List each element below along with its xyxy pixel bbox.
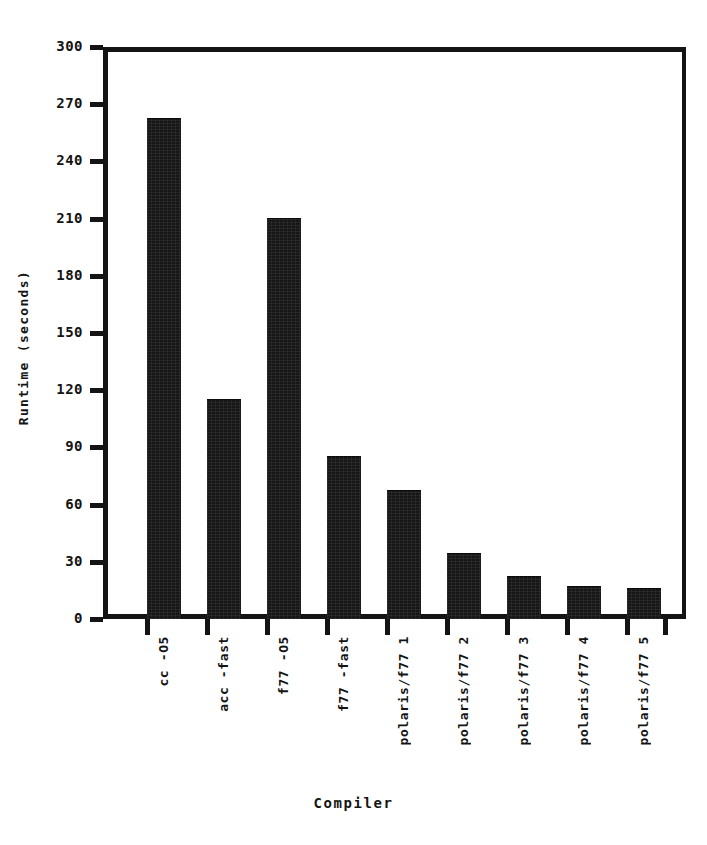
- bar-slot: [314, 47, 374, 619]
- y-tick-label: 180: [56, 267, 83, 283]
- y-tick-mark: [90, 617, 103, 622]
- bar-slot: [134, 47, 194, 619]
- bar: [507, 576, 541, 619]
- x-tick-label: polaris/f77 1: [396, 636, 416, 746]
- bar: [627, 588, 661, 620]
- x-tick-label: cc -O5: [156, 636, 176, 687]
- x-tick-mark: [205, 619, 210, 635]
- bar-slot: [494, 47, 554, 619]
- bar-slot: [614, 47, 674, 619]
- y-tick-mark: [90, 217, 103, 222]
- y-tick-label: 210: [56, 210, 83, 226]
- x-tick-label: acc -fast: [216, 636, 236, 712]
- y-tick-mark: [90, 159, 103, 164]
- bar-chart-figure: 0306090120150180210240270300 cc -O5acc -…: [0, 0, 707, 845]
- bar-slot: [434, 47, 494, 619]
- y-tick-mark: [90, 331, 103, 336]
- y-tick-label: 150: [56, 324, 83, 340]
- x-tick-mark: [445, 619, 450, 635]
- y-tick-mark: [90, 560, 103, 565]
- x-tick-label: polaris/f77 2: [456, 636, 476, 746]
- y-tick-label: 120: [56, 381, 83, 397]
- y-tick-mark: [90, 45, 103, 50]
- bar-slot: [554, 47, 614, 619]
- bar-slot: [194, 47, 254, 619]
- y-tick-label: 60: [65, 496, 83, 512]
- bar: [447, 553, 481, 619]
- bar: [207, 399, 241, 619]
- x-tick-mark: [145, 619, 150, 635]
- x-tick-label: f77 -O5: [276, 636, 296, 695]
- x-tick-mark: [625, 619, 630, 635]
- y-tick-mark: [90, 388, 103, 393]
- x-tick-label: polaris/f77 4: [576, 636, 596, 746]
- y-tick-label: 0: [74, 610, 83, 626]
- bar: [327, 456, 361, 619]
- x-tick-mark: [265, 619, 270, 635]
- x-tick-mark: [505, 619, 510, 635]
- bar-slot: [254, 47, 314, 619]
- x-tick-mark: [565, 619, 570, 635]
- bar-series: [103, 47, 686, 619]
- y-tick-label: 300: [56, 38, 83, 54]
- x-axis-title: Compiler: [0, 795, 707, 811]
- y-tick-mark: [90, 102, 103, 107]
- bar: [267, 218, 301, 619]
- x-tick-mark: [385, 619, 390, 635]
- y-tick-mark: [90, 274, 103, 279]
- x-tick-label: polaris/f77 3: [516, 636, 536, 746]
- bar: [567, 586, 601, 619]
- y-tick-mark: [90, 445, 103, 450]
- y-axis-title: Runtime (seconds): [16, 270, 31, 425]
- x-tick-mark: [663, 619, 668, 635]
- y-tick-label: 90: [65, 438, 83, 454]
- y-tick-label: 270: [56, 95, 83, 111]
- y-tick-mark: [90, 503, 103, 508]
- x-tick-label: polaris/f77 5: [636, 636, 656, 746]
- y-tick-label: 30: [65, 553, 83, 569]
- bar: [147, 118, 181, 619]
- y-tick-label: 240: [56, 152, 83, 168]
- bar-slot: [374, 47, 434, 619]
- x-tick-label: f77 -fast: [336, 636, 356, 712]
- bar: [387, 490, 421, 619]
- x-tick-mark: [325, 619, 330, 635]
